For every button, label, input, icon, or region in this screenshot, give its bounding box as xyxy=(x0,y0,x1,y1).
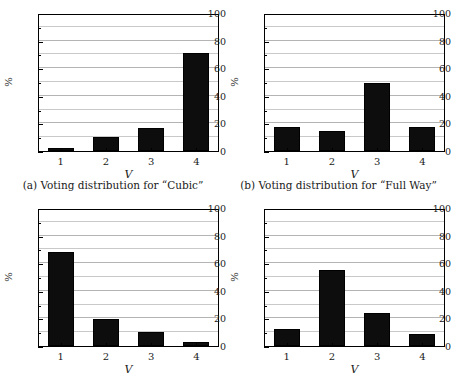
x-tick-mark xyxy=(196,343,197,347)
y-tick-mark xyxy=(264,124,269,125)
y-tick-mark-minor xyxy=(38,83,41,84)
plot-a: % V 0204060801001234 xyxy=(0,0,226,163)
y-tick-mark xyxy=(264,292,269,293)
y-tick-mark xyxy=(264,97,269,98)
y-tick-label: 60 xyxy=(417,259,451,269)
y-axis-label-b: % xyxy=(229,77,240,87)
y-tick-mark-minor xyxy=(38,250,41,251)
x-tick-mark xyxy=(332,343,333,347)
caption-a: (a) Voting distribution for “Cubic” xyxy=(0,179,226,191)
panel-d: % V 0204060801001234 (d) Voting distribu… xyxy=(226,195,451,384)
y-tick-label: 100 xyxy=(192,9,226,19)
x-tick-label: 4 xyxy=(186,352,206,362)
x-tick-mark xyxy=(151,343,152,347)
axes-b xyxy=(264,14,445,152)
x-tick-mark xyxy=(61,343,62,347)
y-tick-label: 80 xyxy=(417,232,451,242)
y-tick-mark xyxy=(38,347,43,348)
y-tick-label: 60 xyxy=(192,64,226,74)
axes-a xyxy=(38,14,219,152)
y-tick-mark xyxy=(38,152,43,153)
y-tick-mark xyxy=(38,42,43,43)
bars-b xyxy=(265,15,444,151)
y-tick-mark-minor xyxy=(264,83,267,84)
y-tick-mark-minor xyxy=(38,111,41,112)
x-tick-mark xyxy=(377,343,378,347)
x-tick-label: 1 xyxy=(51,352,71,362)
y-tick-label: 20 xyxy=(417,120,451,130)
y-tick-label: 100 xyxy=(417,9,451,19)
bars-d xyxy=(265,210,444,346)
x-tick-mark xyxy=(332,148,333,152)
y-axis-label-a: % xyxy=(3,77,14,87)
x-tick-label: 4 xyxy=(412,352,432,362)
x-tick-mark xyxy=(106,343,107,347)
y-tick-label: 20 xyxy=(192,315,226,325)
y-tick-label: 80 xyxy=(192,37,226,47)
y-tick-mark-minor xyxy=(264,333,267,334)
y-tick-mark-minor xyxy=(264,138,267,139)
plot-c: % V 0204060801001234 xyxy=(0,195,226,358)
y-tick-mark xyxy=(264,209,269,210)
y-tick-mark-minor xyxy=(264,111,267,112)
x-tick-mark xyxy=(377,148,378,152)
y-tick-mark-minor xyxy=(264,55,267,56)
y-tick-mark-minor xyxy=(38,223,41,224)
x-tick-mark xyxy=(422,343,423,347)
x-tick-label: 2 xyxy=(96,352,116,362)
voting-distribution-figure: % V 0204060801001234 (a) Voting distribu… xyxy=(0,0,451,384)
x-tick-label: 2 xyxy=(322,157,342,167)
x-tick-label: 3 xyxy=(367,157,387,167)
bar xyxy=(93,319,119,346)
y-tick-mark xyxy=(38,14,43,15)
y-tick-mark xyxy=(38,69,43,70)
x-tick-mark xyxy=(61,148,62,152)
y-tick-mark xyxy=(264,237,269,238)
y-tick-mark xyxy=(38,237,43,238)
y-axis-label-d: % xyxy=(229,272,240,282)
y-tick-mark-minor xyxy=(264,306,267,307)
y-tick-label: 80 xyxy=(192,232,226,242)
panel-a: % V 0204060801001234 (a) Voting distribu… xyxy=(0,0,226,195)
y-tick-label: 40 xyxy=(192,92,226,102)
y-tick-mark xyxy=(264,14,269,15)
x-tick-mark xyxy=(196,148,197,152)
y-tick-mark xyxy=(264,152,269,153)
x-tick-mark xyxy=(287,343,288,347)
panel-b: % V 0204060801001234 (b) Voting distribu… xyxy=(226,0,451,195)
y-tick-label: 20 xyxy=(417,315,451,325)
y-tick-mark-minor xyxy=(264,278,267,279)
y-tick-mark-minor xyxy=(38,333,41,334)
caption-b: (b) Voting distribution for “Full Way” xyxy=(226,179,451,191)
x-tick-label: 1 xyxy=(277,157,297,167)
x-tick-mark xyxy=(106,148,107,152)
y-tick-mark xyxy=(264,264,269,265)
x-tick-mark xyxy=(287,148,288,152)
bars-c xyxy=(39,210,218,346)
bar xyxy=(364,83,390,151)
y-tick-label: 40 xyxy=(417,92,451,102)
y-tick-mark-minor xyxy=(38,28,41,29)
panel-grid: % V 0204060801001234 (a) Voting distribu… xyxy=(0,0,451,384)
y-tick-mark-minor xyxy=(38,55,41,56)
axes-c xyxy=(38,209,219,347)
x-axis-label-c: V xyxy=(125,363,133,376)
y-tick-mark xyxy=(264,347,269,348)
y-tick-mark xyxy=(38,97,43,98)
x-tick-label: 3 xyxy=(141,352,161,362)
x-tick-label: 1 xyxy=(277,352,297,362)
bar xyxy=(364,313,390,346)
y-tick-mark xyxy=(38,124,43,125)
y-tick-mark-minor xyxy=(264,28,267,29)
y-tick-mark xyxy=(38,264,43,265)
y-tick-label: 20 xyxy=(192,120,226,130)
x-tick-label: 2 xyxy=(322,352,342,362)
x-tick-mark xyxy=(151,148,152,152)
y-tick-label: 100 xyxy=(417,204,451,214)
x-tick-label: 4 xyxy=(412,157,432,167)
axes-d xyxy=(264,209,445,347)
y-tick-label: 40 xyxy=(417,287,451,297)
bar xyxy=(48,252,74,346)
x-axis-label-d: V xyxy=(351,363,359,376)
y-tick-mark xyxy=(38,209,43,210)
